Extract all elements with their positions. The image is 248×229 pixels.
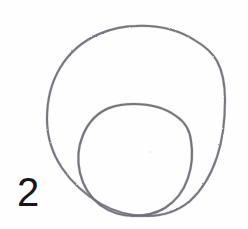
sketch-page: 2 [0, 0, 248, 229]
graphite-speck [149, 151, 150, 152]
figure-number-label: 2 [17, 172, 39, 212]
